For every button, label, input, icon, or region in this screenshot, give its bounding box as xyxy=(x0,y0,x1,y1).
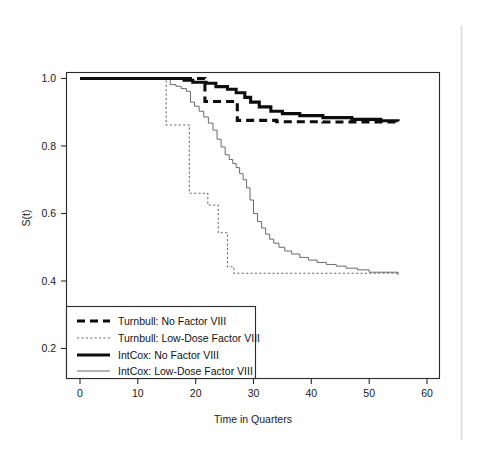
x-tick-label-30: 30 xyxy=(248,387,260,399)
curve-intcox-low-dose-factor-viii xyxy=(80,79,398,275)
y-axis-ticks xyxy=(61,79,67,349)
x-tick-label-40: 40 xyxy=(305,387,317,399)
curve-intcox-no-factor-viii xyxy=(80,79,398,122)
y-tick-label-1: 1.0 xyxy=(41,72,56,84)
curves-group xyxy=(80,79,398,275)
figure-page: 1.0 0.8 0.6 0.4 0.2 S(t) 0 10 20 30 40 5… xyxy=(0,0,486,463)
x-axis-ticks xyxy=(80,379,427,385)
y-tick-label-5: 0.2 xyxy=(41,342,56,354)
legend-label-turnbull-low-dose: Turnbull: Low-Dose Factor VIII xyxy=(118,332,260,344)
y-tick-label-3: 0.6 xyxy=(41,207,56,219)
y-tick-label-4: 0.4 xyxy=(41,275,56,287)
x-tick-label-50: 50 xyxy=(363,387,375,399)
x-tick-label-20: 20 xyxy=(190,387,202,399)
x-tick-label-10: 10 xyxy=(132,387,144,399)
x-axis-title: Time in Quarters xyxy=(214,413,292,425)
legend-label-intcox-no-factor: IntCox: No Factor VIII xyxy=(118,349,219,361)
x-tick-label-0: 0 xyxy=(77,387,83,399)
curve-turnbull-no-factor-viii xyxy=(80,79,398,123)
legend-label-intcox-low-dose: IntCox: Low-Dose Factor VIII xyxy=(118,365,253,377)
y-tick-label-2: 0.8 xyxy=(41,140,56,152)
x-tick-label-60: 60 xyxy=(421,387,433,399)
curve-turnbull-low-dose-factor-viii xyxy=(80,79,398,274)
legend-label-turnbull-no-factor: Turnbull: No Factor VIII xyxy=(118,315,226,327)
survival-curve-chart: 1.0 0.8 0.6 0.4 0.2 S(t) 0 10 20 30 40 5… xyxy=(0,0,486,463)
y-axis-title: S(t) xyxy=(20,210,32,227)
